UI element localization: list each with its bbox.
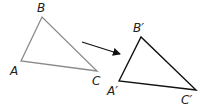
label-a: A: [9, 64, 18, 78]
label-b-prime: B′: [133, 21, 144, 35]
triangle-abc: [21, 17, 97, 71]
triangle-a-prime-b-prime-c-prime: [119, 37, 196, 90]
label-c: C: [92, 74, 101, 88]
translation-arrow: [82, 42, 120, 54]
label-a-prime: A′: [106, 84, 118, 98]
label-c-prime: C′: [181, 93, 192, 107]
label-b: B: [37, 1, 45, 15]
translation-diagram: B A C B′ A′ C′: [0, 0, 206, 107]
